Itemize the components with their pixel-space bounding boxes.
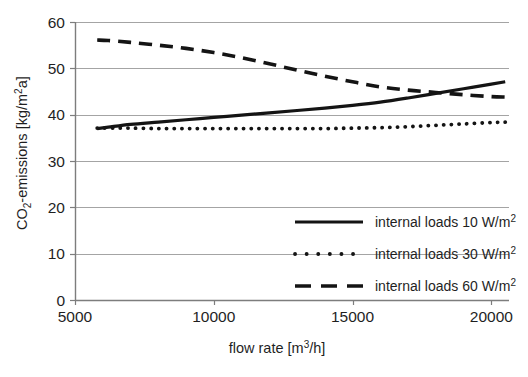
x-axis-title: flow rate [m3/h]: [229, 339, 326, 356]
line-chart: 0102030405060 5000100001500020000 CO2-em…: [0, 0, 528, 377]
legend-label-2: internal loads 30 W/m2: [375, 245, 516, 262]
chart-figure: 0102030405060 5000100001500020000 CO2-em…: [0, 0, 528, 377]
x-tick-label-20000: 20000: [470, 308, 513, 325]
y-tick-label-40: 40: [48, 106, 66, 123]
y-tick-label-30: 30: [48, 153, 66, 170]
legend-label-1: internal loads 10 W/m2: [375, 213, 516, 230]
y-tick-label-0: 0: [56, 292, 65, 309]
y-tick-label-60: 60: [48, 14, 66, 31]
x-tick-label-10000: 10000: [192, 308, 235, 325]
y-tick-label-20: 20: [48, 199, 66, 216]
x-tick-label-15000: 15000: [331, 308, 374, 325]
x-tick-label-5000: 5000: [58, 308, 93, 325]
y-tick-label-50: 50: [48, 60, 66, 77]
legend-label-3: internal loads 60 W/m2: [375, 277, 516, 294]
y-tick-label-10: 10: [48, 245, 66, 262]
